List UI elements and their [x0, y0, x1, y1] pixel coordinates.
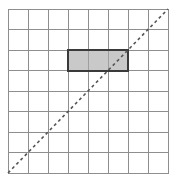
- figure-container: [0, 0, 175, 184]
- grid-figure: [0, 0, 175, 184]
